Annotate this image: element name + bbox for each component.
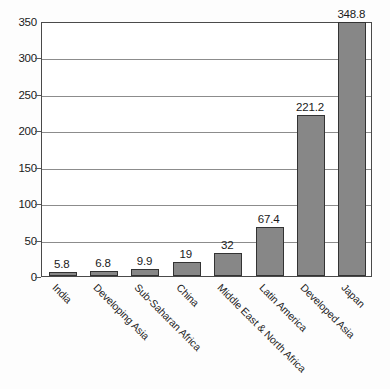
bar bbox=[297, 115, 325, 276]
bar-value-label: 221.2 bbox=[280, 101, 340, 113]
y-axis-tick-label: 100 bbox=[3, 199, 37, 210]
bar bbox=[173, 262, 201, 276]
x-axis-tick-label: Japan bbox=[340, 282, 368, 310]
bar-value-label: 32 bbox=[197, 239, 257, 251]
bar bbox=[90, 271, 118, 276]
bar-chart: 050100150200250300350 5.86.89.9193267.42… bbox=[0, 0, 390, 389]
bar bbox=[49, 272, 77, 276]
bar-value-label: 67.4 bbox=[239, 213, 299, 225]
x-axis-tick-label: India bbox=[50, 282, 74, 306]
x-axis-tick-label: Middle East & North Africa bbox=[215, 282, 308, 375]
y-axis-tick-label: 250 bbox=[3, 89, 37, 100]
y-axis-tick-label: 150 bbox=[3, 162, 37, 173]
bar bbox=[256, 227, 284, 276]
y-axis-tick-label: 50 bbox=[3, 235, 37, 246]
y-axis-tick-label: 350 bbox=[3, 17, 37, 28]
bar-value-label: 348.8 bbox=[321, 8, 381, 20]
y-axis-tick-label: 0 bbox=[3, 272, 37, 283]
x-axis-tick-label: China bbox=[174, 282, 201, 309]
y-axis-tick-label: 200 bbox=[3, 126, 37, 137]
y-axis-tick-mark bbox=[35, 277, 41, 278]
bar bbox=[338, 22, 366, 276]
bar bbox=[214, 253, 242, 276]
gridline bbox=[42, 59, 371, 60]
gridline bbox=[42, 96, 371, 97]
bar bbox=[131, 269, 159, 276]
y-axis-tick-label: 300 bbox=[3, 53, 37, 64]
